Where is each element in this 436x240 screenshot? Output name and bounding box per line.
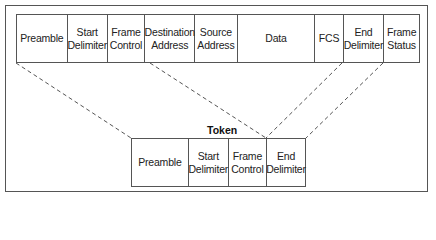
token-field-frame-control: Frame Control bbox=[229, 139, 267, 186]
token-field-preamble: Preamble bbox=[132, 139, 189, 186]
dashed-line-preamble bbox=[16, 63, 131, 138]
dashed-line-fcs bbox=[266, 63, 342, 138]
dashed-line-frame-status bbox=[306, 63, 383, 138]
token-format-row: Preamble Start Delimiter Frame Control E… bbox=[131, 138, 306, 187]
token-field-end-delimiter: End Delimiter bbox=[267, 139, 305, 186]
token-field-start-delimiter: Start Delimiter bbox=[189, 139, 229, 186]
token-title: Token bbox=[207, 124, 237, 136]
